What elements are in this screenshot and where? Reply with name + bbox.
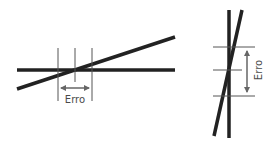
diagram-canvas: Erro Erro bbox=[0, 0, 273, 145]
left-figure: Erro bbox=[17, 37, 175, 105]
error-label: Erro bbox=[65, 94, 85, 105]
slanted-thick-line bbox=[17, 37, 175, 89]
right-figure: Erro bbox=[213, 10, 264, 138]
error-label: Erro bbox=[253, 60, 264, 80]
